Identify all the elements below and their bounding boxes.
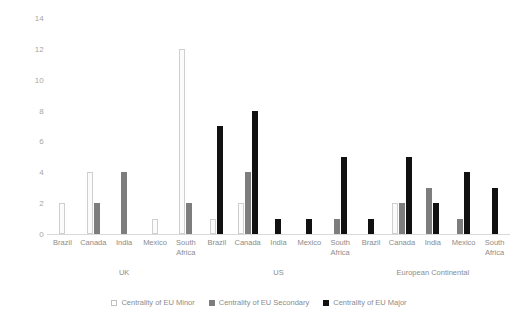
y-axis: 14121086420 (0, 18, 44, 234)
legend-swatch-minor-icon (111, 300, 117, 306)
bar-cluster (387, 18, 418, 234)
bar-minor[interactable] (87, 172, 93, 234)
bar-cluster (294, 18, 325, 234)
bar-minor[interactable] (59, 203, 65, 234)
bar-cluster (417, 18, 448, 234)
category-label: Canada (232, 236, 263, 248)
bar-secondary[interactable] (186, 203, 192, 234)
chart-legend: Centrality of EU MinorCentrality of EU S… (0, 298, 518, 307)
legend-label: Centrality of EU Minor (121, 298, 194, 307)
bar-cluster (201, 18, 232, 234)
y-axis-tick: 4 (4, 168, 44, 177)
bar-secondary[interactable] (334, 219, 340, 234)
group-label: US (201, 268, 355, 282)
category-label: Mexico (448, 236, 479, 248)
y-axis-tick: 10 (4, 75, 44, 84)
bar-cluster (263, 18, 294, 234)
category-label: South Africa (170, 236, 201, 257)
bar-major[interactable] (433, 203, 439, 234)
category-label: Brazil (356, 236, 387, 248)
y-axis-tick: 8 (4, 106, 44, 115)
y-axis-tick: 12 (4, 44, 44, 53)
y-axis-tick: 14 (4, 14, 44, 23)
category-label: South Africa (479, 236, 510, 257)
bar-chart: 14121086420 BrazilCanadaIndiaMexicoSouth… (0, 0, 518, 324)
legend-swatch-major-icon (323, 300, 329, 306)
bar-minor[interactable] (238, 203, 244, 234)
bar-secondary[interactable] (94, 203, 100, 234)
bar-major[interactable] (306, 219, 312, 234)
category-label: Canada (78, 236, 109, 248)
bar-cluster (479, 18, 510, 234)
legend-item[interactable]: Centrality of EU Major (323, 298, 406, 307)
bar-group (47, 18, 201, 234)
category-label: Brazil (47, 236, 78, 248)
legend-item[interactable]: Centrality of EU Secondary (209, 298, 309, 307)
category-label: South Africa (325, 236, 356, 257)
bar-major[interactable] (368, 219, 374, 234)
bar-cluster (140, 18, 171, 234)
bar-secondary[interactable] (121, 172, 127, 234)
x-axis-line (47, 234, 510, 235)
category-label: Brazil (201, 236, 232, 248)
group-label: European Continental (356, 268, 510, 282)
category-label: India (417, 236, 448, 248)
category-label: India (263, 236, 294, 248)
bar-secondary[interactable] (426, 188, 432, 234)
bar-major[interactable] (406, 157, 412, 234)
bar-group (356, 18, 510, 234)
bar-minor[interactable] (210, 219, 216, 234)
category-label-group: BrazilCanadaIndiaMexicoSouth Africa (201, 236, 355, 262)
category-label-group: BrazilCanadaIndiaMexicoSouth Africa (356, 236, 510, 262)
bar-major[interactable] (492, 188, 498, 234)
y-axis-tick: 6 (4, 137, 44, 146)
bar-minor[interactable] (179, 49, 185, 234)
group-label: UK (47, 268, 201, 282)
bar-cluster (232, 18, 263, 234)
legend-label: Centrality of EU Major (333, 298, 406, 307)
bar-cluster (325, 18, 356, 234)
y-axis-tick: 2 (4, 199, 44, 208)
bar-minor[interactable] (152, 219, 158, 234)
bar-major[interactable] (341, 157, 347, 234)
bar-major[interactable] (275, 219, 281, 234)
category-label: Mexico (294, 236, 325, 248)
category-labels: BrazilCanadaIndiaMexicoSouth AfricaBrazi… (47, 236, 510, 262)
bar-cluster (170, 18, 201, 234)
category-label: Canada (387, 236, 418, 248)
bar-major[interactable] (464, 172, 470, 234)
group-labels: UKUSEuropean Continental (47, 268, 510, 282)
bar-cluster (448, 18, 479, 234)
bar-cluster (109, 18, 140, 234)
bar-groups (47, 18, 510, 234)
bar-major[interactable] (252, 111, 258, 234)
category-label: India (109, 236, 140, 248)
y-axis-tick: 0 (4, 230, 44, 239)
bar-secondary[interactable] (245, 172, 251, 234)
legend-label: Centrality of EU Secondary (219, 298, 309, 307)
bar-group (201, 18, 355, 234)
legend-swatch-secondary-icon (209, 300, 215, 306)
legend-item[interactable]: Centrality of EU Minor (111, 298, 194, 307)
bar-secondary[interactable] (399, 203, 405, 234)
bar-cluster (47, 18, 78, 234)
bar-major[interactable] (217, 126, 223, 234)
bar-secondary[interactable] (457, 219, 463, 234)
bar-minor[interactable] (392, 203, 398, 234)
bar-cluster (78, 18, 109, 234)
category-label: Mexico (140, 236, 171, 248)
bar-cluster (356, 18, 387, 234)
category-label-group: BrazilCanadaIndiaMexicoSouth Africa (47, 236, 201, 262)
